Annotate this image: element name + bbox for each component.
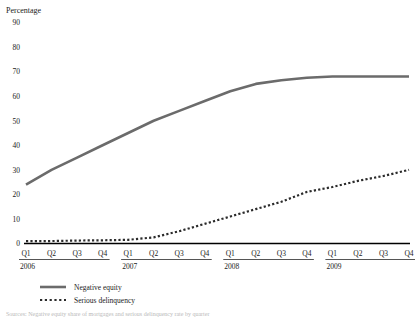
- quarter-tick-label: Q1: [21, 249, 30, 258]
- chart-legend: Negative equitySerious delinquency: [40, 283, 135, 305]
- year-label: 2008: [224, 262, 239, 271]
- series-line-2: [26, 170, 409, 241]
- series-line-1: [26, 77, 409, 185]
- y-tick-label: 60: [13, 92, 21, 101]
- quarter-tick-label: Q2: [251, 249, 260, 258]
- percentage-line-chart: Percentage 0102030405060708090 Q1Q2Q3Q42…: [0, 0, 415, 318]
- year-label: 2006: [20, 262, 35, 271]
- y-tick-label: 40: [13, 141, 21, 150]
- y-tick-label: 10: [13, 215, 21, 224]
- year-label: 2007: [122, 262, 137, 271]
- quarter-tick-label: Q2: [47, 249, 56, 258]
- year-label: 2009: [326, 262, 341, 271]
- footnote: Sources: Negative equity share of mortga…: [6, 311, 209, 317]
- y-tick-label: 80: [13, 43, 21, 52]
- y-tick-label: 0: [16, 239, 20, 248]
- quarter-tick-label: Q4: [404, 249, 413, 258]
- x-axis-tick-labels: Q1Q2Q3Q42006Q1Q2Q3Q42007Q1Q2Q3Q42008Q1Q2…: [19, 249, 415, 272]
- quarter-tick-label: Q3: [277, 249, 286, 258]
- quarter-tick-label: Q4: [98, 249, 107, 258]
- quarter-tick-label: Q1: [328, 249, 337, 258]
- quarter-tick-label: Q4: [302, 249, 311, 258]
- quarter-tick-label: Q3: [175, 249, 184, 258]
- y-tick-label: 30: [13, 166, 21, 175]
- y-axis-tick-labels: 0102030405060708090: [13, 18, 21, 248]
- legend-label: Negative equity: [74, 283, 122, 292]
- y-tick-label: 50: [13, 117, 21, 126]
- quarter-tick-label: Q3: [72, 249, 81, 258]
- quarter-tick-label: Q2: [353, 249, 362, 258]
- y-tick-label: 20: [13, 190, 21, 199]
- y-axis-title: Percentage: [6, 6, 42, 15]
- y-tick-label: 70: [13, 67, 21, 76]
- y-tick-label: 90: [13, 18, 21, 27]
- quarter-tick-label: Q4: [200, 249, 209, 258]
- quarter-tick-label: Q1: [226, 249, 235, 258]
- quarter-tick-label: Q2: [149, 249, 158, 258]
- quarter-tick-label: Q3: [379, 249, 388, 258]
- series-layer: [26, 77, 409, 242]
- legend-label: Serious delinquency: [74, 296, 135, 305]
- quarter-tick-label: Q1: [124, 249, 133, 258]
